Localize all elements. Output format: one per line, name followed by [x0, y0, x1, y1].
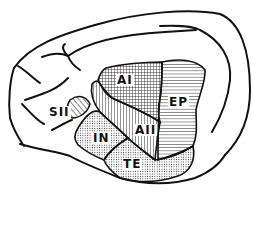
label-aii: AII	[134, 124, 157, 136]
label-ai: AI	[116, 74, 134, 86]
region-ep	[158, 60, 205, 160]
label-ep: EP	[168, 96, 189, 108]
region-sii	[67, 97, 90, 118]
label-in: IN	[92, 132, 111, 144]
label-sii: SII	[48, 106, 71, 118]
label-te: TE	[122, 158, 142, 170]
